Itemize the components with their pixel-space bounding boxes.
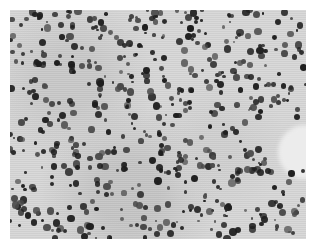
cell <box>104 192 110 198</box>
cell <box>167 186 170 189</box>
cell <box>96 190 100 194</box>
cell <box>170 123 175 128</box>
cell <box>259 163 262 166</box>
cell <box>84 209 90 215</box>
cell <box>23 188 26 191</box>
cell <box>109 236 112 239</box>
cell <box>294 114 300 120</box>
cell <box>222 75 226 79</box>
cell <box>144 78 150 84</box>
cell <box>50 182 54 186</box>
cell <box>35 152 40 157</box>
cell <box>87 59 90 62</box>
cell <box>153 19 158 24</box>
cell <box>90 199 95 204</box>
cell <box>277 203 283 209</box>
cell <box>161 55 167 61</box>
cell <box>47 207 54 214</box>
cell <box>95 237 98 239</box>
cell <box>80 46 84 50</box>
cell <box>123 55 126 58</box>
cell <box>217 164 220 167</box>
cell <box>96 29 99 32</box>
cell <box>246 10 252 13</box>
cell <box>222 25 225 28</box>
cell <box>105 149 111 155</box>
cell <box>203 200 206 203</box>
cell <box>257 77 261 81</box>
cell <box>157 224 163 230</box>
cell <box>11 150 16 155</box>
cell <box>19 23 23 27</box>
cell <box>14 59 19 64</box>
cell <box>165 201 171 207</box>
cell <box>10 50 14 54</box>
cell <box>97 80 104 87</box>
cell <box>206 84 213 91</box>
cell <box>126 98 131 103</box>
cell <box>99 95 102 98</box>
cell <box>154 205 161 212</box>
cell <box>255 114 262 121</box>
cell <box>188 87 194 93</box>
cell <box>140 224 147 231</box>
cell <box>41 28 43 30</box>
cell <box>117 39 124 46</box>
cell <box>52 235 58 239</box>
cell <box>56 228 61 233</box>
cell <box>187 100 192 105</box>
cell <box>135 18 140 23</box>
cell <box>59 34 65 40</box>
cell <box>282 193 285 196</box>
cell <box>41 219 44 222</box>
cell <box>218 169 221 172</box>
cell <box>97 86 102 91</box>
cell <box>175 10 180 13</box>
cell <box>22 87 25 90</box>
cell <box>95 111 102 118</box>
cell <box>65 168 72 175</box>
cell <box>119 70 123 74</box>
cell <box>123 147 130 154</box>
microscopy-image <box>10 10 306 239</box>
cell <box>210 228 213 231</box>
cell <box>275 224 280 229</box>
cell <box>286 179 291 184</box>
cell <box>176 160 179 163</box>
cell <box>131 81 133 83</box>
cell <box>129 14 135 20</box>
cell <box>177 151 180 154</box>
cell <box>153 102 160 109</box>
cell <box>71 55 74 58</box>
cell <box>253 11 260 18</box>
cell <box>228 15 231 18</box>
cell <box>233 129 239 135</box>
cell <box>95 65 102 72</box>
cell <box>197 220 200 223</box>
cell <box>184 190 187 193</box>
cell <box>67 127 71 131</box>
cell <box>252 167 257 172</box>
cell <box>244 209 247 212</box>
cell <box>126 62 131 67</box>
cell <box>144 24 147 27</box>
cell <box>47 111 51 115</box>
cell <box>52 12 57 17</box>
cell <box>286 99 289 102</box>
cell <box>194 206 201 213</box>
cell <box>11 188 14 191</box>
cell <box>86 223 93 230</box>
cell <box>115 86 121 92</box>
cell <box>222 123 225 126</box>
cell <box>10 33 16 39</box>
cell <box>304 83 306 86</box>
cell <box>131 122 134 125</box>
cell <box>127 88 134 95</box>
cell <box>210 61 217 68</box>
cell <box>223 235 231 239</box>
cell <box>235 171 240 176</box>
cell <box>154 231 160 237</box>
cell <box>111 149 117 155</box>
cell <box>166 170 171 175</box>
cell <box>201 69 204 72</box>
